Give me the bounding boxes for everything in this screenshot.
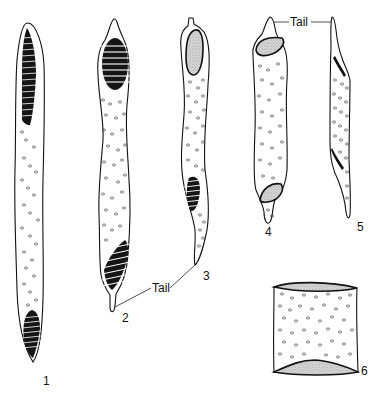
figure-plate: 1 xyxy=(0,0,384,393)
figure-3-stippled-body xyxy=(186,30,203,75)
figure-4-number: 4 xyxy=(265,225,272,239)
figure-1-number: 1 xyxy=(43,374,50,388)
figure-5-cell xyxy=(330,17,350,218)
figure-3-cell xyxy=(181,18,210,265)
figure-1-cell xyxy=(15,23,45,362)
figure-2-number: 2 xyxy=(122,311,129,325)
tail-label-lower: Tail xyxy=(152,281,170,295)
figure-3-number: 3 xyxy=(203,269,210,283)
figure-6-cylinder xyxy=(274,283,358,375)
figure-2-cell xyxy=(98,19,130,312)
figure-4-cell xyxy=(253,17,288,223)
figure-6-number: 6 xyxy=(361,364,368,378)
tail-label-upper: Tail xyxy=(290,15,308,29)
figure-6-top-rim xyxy=(274,283,357,292)
figure-5-number: 5 xyxy=(357,220,364,234)
